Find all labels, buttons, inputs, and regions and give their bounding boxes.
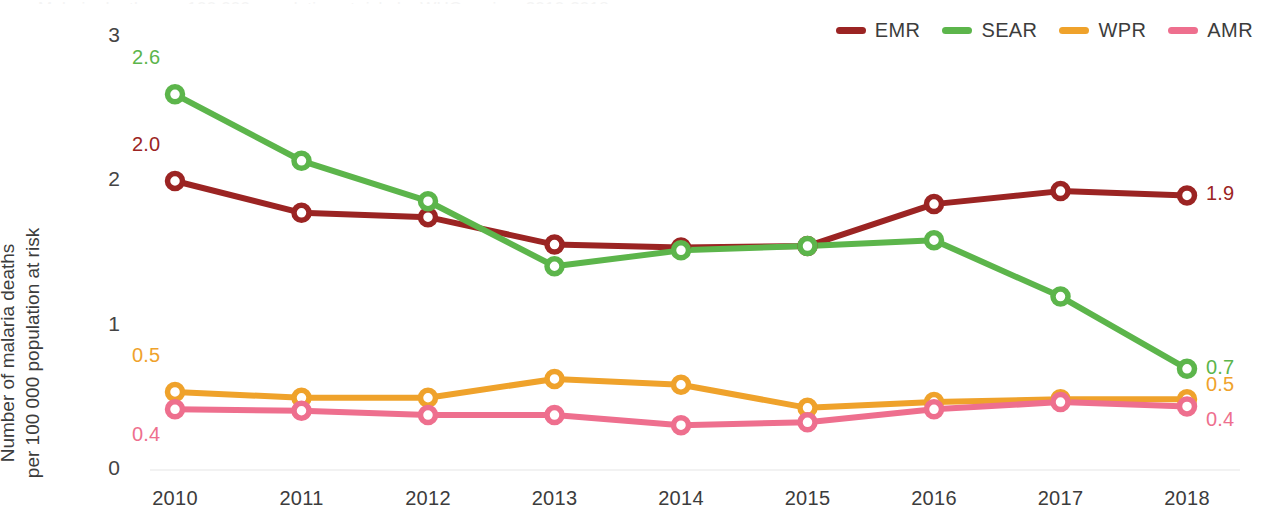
series-canvas [0,0,1269,530]
start-label-emr: 2.0 [132,133,160,156]
data-point-marker[interactable] [800,239,815,254]
data-point-marker[interactable] [674,243,689,258]
data-point-marker[interactable] [547,408,562,423]
x-axis-tick-label: 2012 [373,487,483,510]
data-point-marker[interactable] [294,205,309,220]
data-point-marker[interactable] [168,384,183,399]
data-point-marker[interactable] [294,153,309,168]
end-label-amr: 0.4 [1206,408,1234,431]
data-point-marker[interactable] [1053,289,1068,304]
start-label-sear: 2.6 [132,46,160,69]
data-point-marker[interactable] [421,194,436,209]
plot-area: 0123 20102011201220132014201520162017201… [0,0,1269,530]
x-axis-tick-label: 2017 [1006,487,1116,510]
data-point-marker[interactable] [927,197,942,212]
x-axis-tick-label: 2013 [500,487,610,510]
data-point-marker[interactable] [1180,188,1195,203]
x-axis-tick-label: 2016 [879,487,989,510]
data-point-marker[interactable] [421,390,436,405]
y-axis-tick-label: 2 [76,167,120,191]
start-label-wpr: 0.5 [132,344,160,367]
data-point-marker[interactable] [1180,361,1195,376]
data-point-marker[interactable] [927,233,942,248]
data-point-marker[interactable] [547,371,562,386]
data-point-marker[interactable] [294,403,309,418]
chart-root: Malaria deaths per 100 000 population at… [0,0,1269,530]
y-axis-tick-label: 0 [76,456,120,480]
data-point-marker[interactable] [1053,395,1068,410]
data-point-marker[interactable] [1053,184,1068,199]
x-axis-tick-label: 2018 [1132,487,1242,510]
data-point-marker[interactable] [168,87,183,102]
end-label-wpr: 0.5 [1206,373,1234,396]
data-point-marker[interactable] [674,377,689,392]
x-axis-tick-label: 2014 [626,487,736,510]
y-axis-tick-label: 3 [76,23,120,47]
data-point-marker[interactable] [421,210,436,225]
x-axis-tick-label: 2010 [120,487,230,510]
x-axis-tick-label: 2015 [753,487,863,510]
data-point-marker[interactable] [547,259,562,274]
data-point-marker[interactable] [547,237,562,252]
data-point-marker[interactable] [927,402,942,417]
data-point-marker[interactable] [421,408,436,423]
x-axis-tick-label: 2011 [247,487,357,510]
data-point-marker[interactable] [800,415,815,430]
data-point-marker[interactable] [168,402,183,417]
y-axis-tick-label: 1 [76,312,120,336]
data-point-marker[interactable] [674,418,689,433]
series-line-sear [175,94,1187,369]
data-point-marker[interactable] [168,174,183,189]
start-label-amr: 0.4 [132,423,160,446]
end-label-emr: 1.9 [1206,182,1234,205]
data-point-marker[interactable] [1180,399,1195,414]
